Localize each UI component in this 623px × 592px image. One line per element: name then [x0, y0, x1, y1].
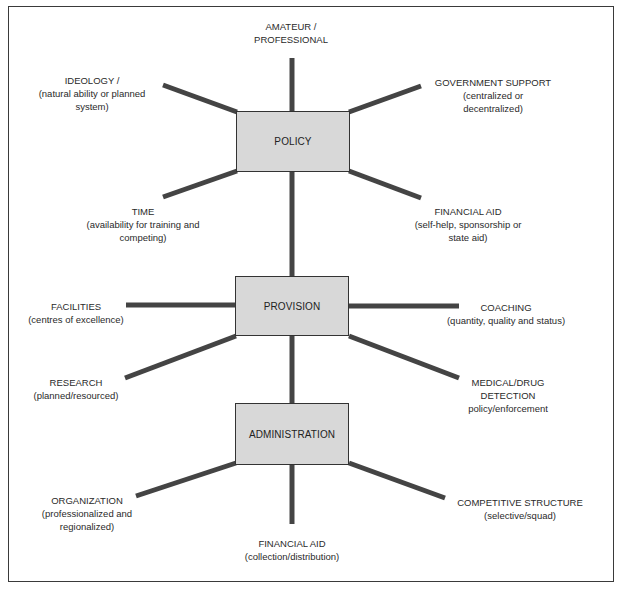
link-financial-aid-policy	[349, 171, 421, 198]
factor-financial-aid-admin: FINANCIAL AID (collection/distribution)	[245, 537, 340, 563]
factor-organization: ORGANIZATION (professionalized and regio…	[42, 494, 132, 533]
factor-title: ORGANIZATION	[42, 494, 132, 507]
link-government-support	[349, 86, 421, 112]
node-administration-label: ADMINISTRATION	[249, 429, 335, 440]
factor-subtitle: DETECTION	[468, 389, 548, 402]
factor-subtitle: system)	[39, 100, 146, 113]
factor-subtitle: (natural ability or planned	[39, 87, 146, 100]
factor-subtitle: policy/enforcement	[468, 402, 548, 415]
factor-title: COACHING	[447, 301, 565, 314]
link-competitive-structure	[349, 463, 445, 498]
factor-title: MEDICAL/DRUG	[468, 376, 548, 389]
factor-subtitle: PROFESSIONAL	[254, 33, 328, 46]
factor-facilities: FACILITIES (centres of excellence)	[28, 300, 124, 326]
link-organization	[136, 463, 236, 496]
factor-government-support: GOVERNMENT SUPPORT (centralized or decen…	[435, 76, 551, 115]
factor-amateur-professional: AMATEUR / PROFESSIONAL	[254, 20, 328, 46]
factor-subtitle: (collection/distribution)	[245, 550, 340, 563]
factor-subtitle: (centralized or	[435, 89, 551, 102]
factor-coaching: COACHING (quantity, quality and status)	[447, 301, 565, 327]
factor-research: RESEARCH (planned/resourced)	[33, 376, 118, 402]
factor-medical-drug-detection: MEDICAL/DRUG DETECTION policy/enforcemen…	[468, 376, 548, 415]
factor-subtitle: (availability for training and	[86, 218, 199, 231]
factor-title: FINANCIAL AID	[245, 537, 340, 550]
factor-title: AMATEUR /	[254, 20, 328, 33]
factor-title: FINANCIAL AID	[415, 205, 522, 218]
factor-financial-aid-policy: FINANCIAL AID (self-help, sponsorship or…	[415, 205, 522, 244]
link-ideology	[163, 85, 237, 112]
link-research	[125, 336, 236, 378]
link-time	[163, 171, 237, 197]
factor-subtitle: (self-help, sponsorship or	[415, 218, 522, 231]
factor-subtitle: (quantity, quality and status)	[447, 314, 565, 327]
factor-subtitle: (professionalized and	[42, 507, 132, 520]
factor-subtitle: (centres of excellence)	[28, 313, 124, 326]
node-policy: POLICY	[236, 111, 350, 172]
factor-time: TIME (availability for training and comp…	[86, 205, 199, 244]
factor-competitive-structure: COMPETITIVE STRUCTURE (selective/squad)	[457, 496, 583, 522]
node-administration: ADMINISTRATION	[235, 403, 349, 465]
factor-title: RESEARCH	[33, 376, 118, 389]
factor-subtitle: state aid)	[415, 231, 522, 244]
link-medical	[349, 336, 459, 378]
factor-title: GOVERNMENT SUPPORT	[435, 76, 551, 89]
factor-subtitle: (selective/squad)	[457, 509, 583, 522]
node-provision-label: PROVISION	[264, 301, 320, 312]
node-provision: PROVISION	[235, 276, 349, 336]
factor-ideology: IDEOLOGY / (natural ability or planned s…	[39, 74, 146, 113]
node-policy-label: POLICY	[274, 136, 311, 147]
factor-title: TIME	[86, 205, 199, 218]
factor-title: COMPETITIVE STRUCTURE	[457, 496, 583, 509]
factor-subtitle: decentralized)	[435, 102, 551, 115]
factor-subtitle: (planned/resourced)	[33, 389, 118, 402]
factor-subtitle: regionalized)	[42, 520, 132, 533]
factor-subtitle: competing)	[86, 231, 199, 244]
factor-title: FACILITIES	[28, 300, 124, 313]
factor-title: IDEOLOGY /	[39, 74, 146, 87]
